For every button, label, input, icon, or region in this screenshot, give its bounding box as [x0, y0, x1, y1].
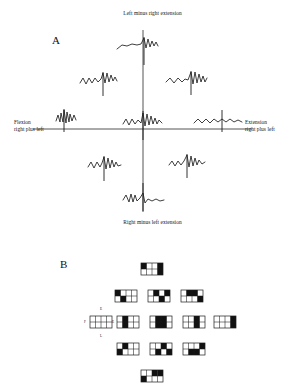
cell-upper-right — [181, 290, 203, 302]
trace-upper-left — [80, 73, 117, 84]
cell-mid-left — [117, 316, 139, 328]
cell-top-center — [141, 263, 163, 275]
trace-mid-right-far — [194, 119, 242, 123]
trace-top-center — [117, 38, 158, 49]
panel-a-traces — [56, 37, 242, 211]
cell-mid-center — [150, 316, 172, 328]
micro-label-left: F — [84, 320, 86, 324]
cell-lower-left — [117, 343, 139, 355]
cell-mid-far-right — [214, 316, 236, 328]
cell-upper-center — [148, 290, 170, 302]
trace-center — [123, 113, 162, 126]
figure-root: A B Left minus right extension Right min… — [0, 0, 305, 392]
cell-mid-far-left — [90, 316, 112, 328]
cell-lower-center — [150, 343, 172, 355]
micro-label-top: E — [100, 307, 102, 311]
trace-upper-right — [166, 72, 207, 84]
cell-bottom-center — [141, 370, 163, 382]
trace-bottom-center — [123, 193, 164, 203]
figure-vector-layer: EFEL — [0, 0, 305, 392]
micro-label-right: E — [112, 320, 114, 324]
trace-lower-left — [88, 157, 121, 169]
cell-mid-right — [183, 316, 205, 328]
cell-lower-right — [183, 343, 205, 355]
trace-mid-left-far — [56, 110, 76, 123]
cell-upper-left — [115, 290, 137, 302]
micro-label-bottom: L — [100, 334, 102, 338]
